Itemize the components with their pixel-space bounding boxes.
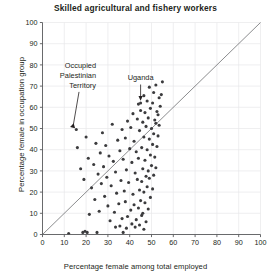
svg-text:50: 50 (148, 238, 156, 247)
svg-text:20: 20 (30, 188, 38, 197)
y-axis-title: Percentage female in occupation group (17, 40, 26, 210)
x-axis-title: Percentage female among total employed (0, 262, 271, 271)
svg-text:70: 70 (191, 238, 199, 247)
svg-text:Palestinian: Palestinian (60, 71, 96, 80)
svg-text:90: 90 (30, 39, 38, 48)
svg-text:100: 100 (255, 238, 267, 247)
data-points (67, 80, 164, 235)
scatter-plot: 0102030405060708090100 01020304050607080… (0, 0, 271, 277)
svg-text:40: 40 (126, 238, 134, 247)
svg-text:Territory: Territory (69, 81, 96, 90)
svg-text:60: 60 (30, 103, 38, 112)
svg-text:60: 60 (169, 238, 177, 247)
svg-text:30: 30 (104, 238, 112, 247)
svg-text:Uganda: Uganda (128, 73, 155, 82)
svg-text:50: 50 (30, 124, 38, 133)
svg-text:10: 10 (30, 209, 38, 218)
svg-text:10: 10 (60, 238, 68, 247)
y-tick-labels: 0102030405060708090100 (26, 18, 38, 239)
svg-text:0: 0 (41, 238, 45, 247)
svg-text:30: 30 (30, 167, 38, 176)
chart-figure: Skilled agricultural and fishery workers… (0, 0, 271, 277)
annotations: OccupiedPalestinianTerritoryUganda (60, 61, 155, 128)
svg-text:80: 80 (30, 61, 38, 70)
svg-text:20: 20 (82, 238, 90, 247)
svg-text:70: 70 (30, 82, 38, 91)
x-tick-labels: 0102030405060708090100 (41, 238, 267, 247)
svg-text:80: 80 (213, 238, 221, 247)
svg-text:0: 0 (34, 230, 38, 239)
svg-text:90: 90 (235, 238, 243, 247)
svg-text:Occupied: Occupied (65, 61, 96, 70)
svg-text:40: 40 (30, 145, 38, 154)
svg-text:100: 100 (26, 18, 38, 27)
